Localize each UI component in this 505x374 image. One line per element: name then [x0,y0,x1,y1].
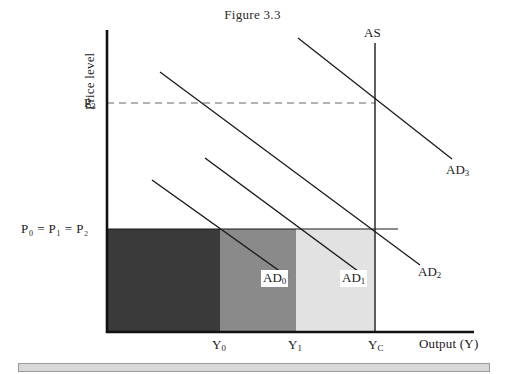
price-label-p0-p1-p2: P₀ = P₁ = P₂ [21,222,89,235]
output-label-y0-subscript: 0 [221,343,225,353]
curve-label-ad3-subscript: 3 [465,168,469,178]
curve-label-ad1-subscript: 1 [361,276,365,286]
price-label-p3: P3 [84,96,96,111]
curve-label-ad1: AD1 [340,270,367,287]
curve-label-ad0-subscript: 0 [282,276,286,286]
output-label-y1: Y1 [288,338,302,353]
curve-label-ad2-text: AD [418,264,437,279]
shaded-region-dark [107,229,220,332]
curve-label-ad0-text: AD [263,270,282,285]
output-label-y0-text: Y [212,337,221,352]
curve-label-ad1-text: AD [342,270,361,285]
plot-canvas [0,0,505,374]
output-label-yc: YC [368,338,383,353]
curve-label-ad0: AD0 [261,270,288,287]
bottom-decorative-bar [18,363,490,372]
output-label-yc-text: Y [368,337,377,352]
output-label-y1-subscript: 1 [297,343,301,353]
price-label-p3-subscript: 3 [91,101,95,111]
curve-label-as: AS [364,26,381,39]
output-label-y0: Y0 [212,338,226,353]
output-label-yc-subscript: C [377,343,383,353]
curve-label-ad3-text: AD [446,162,465,177]
curve-label-ad2-subscript: 2 [437,270,441,280]
curve-label-ad3: AD3 [446,163,469,178]
x-axis-title: Output (Y) [419,337,478,350]
output-label-y1-text: Y [288,337,297,352]
curve-label-ad2: AD2 [418,265,441,280]
figure-container: Figure 3.3 Price level Output (Y) P3 P₀ … [0,0,505,374]
